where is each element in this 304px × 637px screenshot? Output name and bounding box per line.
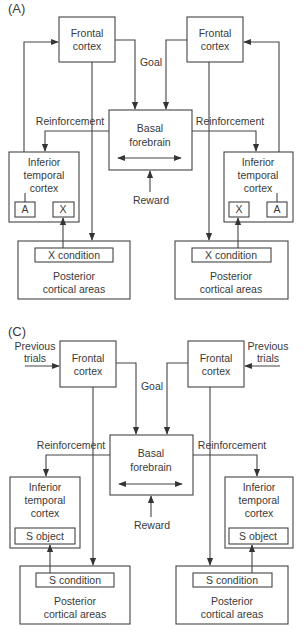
frontal-cortex-right: Frontal cortex xyxy=(187,17,243,62)
inferior-temporal-cortex-right: Inferior temporal cortex X A xyxy=(224,152,293,222)
panel-label-c: (C) xyxy=(8,324,26,339)
svg-text:cortex: cortex xyxy=(73,40,102,52)
svg-text:cortex: cortex xyxy=(74,365,103,377)
svg-text:trials: trials xyxy=(24,352,46,364)
svg-text:temporal: temporal xyxy=(239,494,280,506)
svg-text:Frontal: Frontal xyxy=(199,27,232,39)
posterior-cortical-areas-right: S condition Posterior cortical areas xyxy=(176,566,288,624)
svg-text:trials: trials xyxy=(257,352,279,364)
reward-label: Reward xyxy=(134,519,170,531)
reinforcement-arrow-left xyxy=(46,455,110,476)
svg-text:Frontal: Frontal xyxy=(72,352,105,364)
svg-text:temporal: temporal xyxy=(238,169,279,181)
svg-text:cortex: cortex xyxy=(30,182,59,194)
inferior-temporal-cortex-left: Inferior temporal cortex S object xyxy=(10,477,80,548)
reinforcement-arrow-left xyxy=(45,131,109,151)
svg-text:cortex: cortex xyxy=(201,40,230,52)
panel-a: (A) Frontal cortex Frontal cortex Goal B… xyxy=(8,1,293,299)
frontal-cortex-left: Frontal cortex xyxy=(60,341,116,387)
svg-text:temporal: temporal xyxy=(25,494,66,506)
panel-label-a: (A) xyxy=(8,1,25,16)
svg-text:Frontal: Frontal xyxy=(71,27,104,39)
reinforcement-arrow-right xyxy=(193,455,257,476)
svg-text:cortical areas: cortical areas xyxy=(43,283,105,295)
diagram-canvas: (A) Frontal cortex Frontal cortex Goal B… xyxy=(0,0,304,637)
posterior-cortical-areas-left: X condition Posterior cortical areas xyxy=(18,241,130,299)
it-to-frontal-left xyxy=(24,42,58,152)
reward-label: Reward xyxy=(133,194,169,206)
goal-label: Goal xyxy=(140,56,162,68)
goal-arrow-left xyxy=(116,363,136,434)
goal-label: Goal xyxy=(141,380,163,392)
previous-trials-left: Previous xyxy=(15,340,56,352)
object-label: S object xyxy=(239,530,277,542)
goal-arrow-right xyxy=(167,363,188,434)
svg-text:Posterior: Posterior xyxy=(54,595,97,607)
frontal-cortex-right: Frontal cortex xyxy=(188,341,244,387)
object-label: S object xyxy=(26,530,64,542)
goal-arrow-left xyxy=(115,40,135,109)
svg-text:A: A xyxy=(273,203,280,215)
reinforcement-label-left: Reinforcement xyxy=(36,115,104,127)
reinforcement-label-left: Reinforcement xyxy=(37,439,105,451)
previous-trials-right: Previous xyxy=(248,340,289,352)
svg-text:forebrain: forebrain xyxy=(129,136,171,148)
svg-text:cortex: cortex xyxy=(202,365,231,377)
inferior-temporal-cortex-right: Inferior temporal cortex S object xyxy=(225,477,293,548)
svg-text:A: A xyxy=(21,203,28,215)
basal-forebrain: Basal forebrain xyxy=(110,435,193,495)
svg-text:Posterior: Posterior xyxy=(211,595,254,607)
svg-text:cortex: cortex xyxy=(31,507,60,519)
svg-text:cortical areas: cortical areas xyxy=(200,283,262,295)
svg-text:Inferior: Inferior xyxy=(243,481,276,493)
reinforcement-label-right: Reinforcement xyxy=(196,115,264,127)
reinforcement-arrow-right xyxy=(192,131,256,151)
it-to-frontal-right xyxy=(244,42,279,152)
svg-text:temporal: temporal xyxy=(24,169,65,181)
posterior-cortical-areas-right: X condition Posterior cortical areas xyxy=(175,241,288,299)
svg-text:cortical areas: cortical areas xyxy=(44,608,106,620)
svg-text:cortex: cortex xyxy=(244,182,273,194)
svg-text:cortical areas: cortical areas xyxy=(201,608,263,620)
svg-text:cortex: cortex xyxy=(245,507,274,519)
reinforcement-label-right: Reinforcement xyxy=(198,439,266,451)
svg-text:X: X xyxy=(59,203,66,215)
svg-text:Inferior: Inferior xyxy=(28,156,61,168)
svg-text:Frontal: Frontal xyxy=(200,352,233,364)
svg-text:X: X xyxy=(235,203,242,215)
condition-label: S condition xyxy=(206,574,258,586)
condition-label: S condition xyxy=(49,574,101,586)
svg-text:Inferior: Inferior xyxy=(29,481,62,493)
svg-text:Basal: Basal xyxy=(137,122,163,134)
condition-label: X condition xyxy=(48,249,100,261)
goal-arrow-right xyxy=(166,40,187,109)
condition-label: X condition xyxy=(205,249,257,261)
frontal-cortex-left: Frontal cortex xyxy=(59,17,115,62)
panel-c: (C) Previous trials Previous trials Fron… xyxy=(8,324,293,624)
svg-text:Inferior: Inferior xyxy=(242,156,275,168)
svg-text:Basal: Basal xyxy=(138,447,164,459)
svg-text:Posterior: Posterior xyxy=(210,270,253,282)
svg-text:forebrain: forebrain xyxy=(130,461,172,473)
inferior-temporal-cortex-left: Inferior temporal cortex A X xyxy=(9,152,79,222)
basal-forebrain: Basal forebrain xyxy=(109,110,192,170)
svg-text:Posterior: Posterior xyxy=(53,270,96,282)
posterior-cortical-areas-left: S condition Posterior cortical areas xyxy=(20,566,130,624)
